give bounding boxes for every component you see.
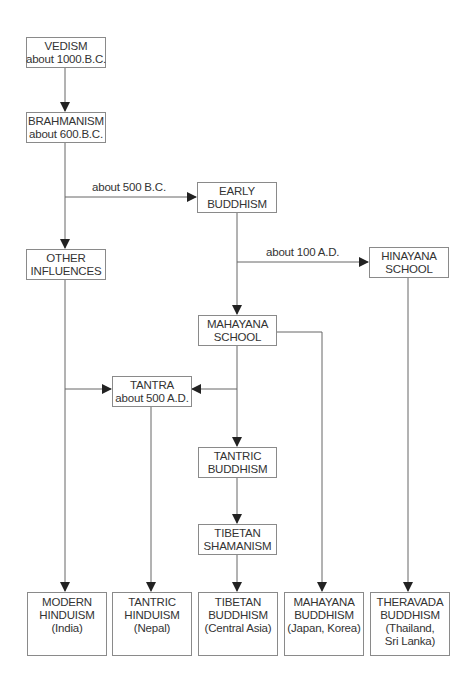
node-label: MODERN bbox=[42, 596, 92, 609]
node-label-2: BUDDHISM bbox=[207, 198, 267, 211]
node-vedism: VEDISM about 1000.B.C. bbox=[26, 37, 106, 68]
node-label-2: HINDUISM bbox=[39, 609, 94, 622]
edge-label-about-500-bc: about 500 B.C. bbox=[92, 181, 166, 193]
node-hinayana-school: HINAYANA SCHOOL bbox=[369, 247, 449, 278]
node-label: MAHAYANA bbox=[293, 596, 354, 609]
node-region: (Nepal) bbox=[134, 622, 170, 635]
node-label: EARLY bbox=[219, 185, 255, 198]
node-label-2: SHAMANISM bbox=[204, 540, 272, 553]
node-other-influences: OTHER INFLUENCES bbox=[26, 249, 106, 280]
node-region: (Japan, Korea) bbox=[287, 622, 360, 635]
node-tibetan-buddhism: TIBETAN BUDDHISM (Central Asia) bbox=[198, 592, 278, 656]
node-sublabel: about 600.B.C. bbox=[29, 128, 103, 141]
node-label-2: INFLUENCES bbox=[31, 265, 102, 278]
node-sublabel: about 1000.B.C. bbox=[26, 53, 106, 66]
node-mahayana-school: MAHAYANA SCHOOL bbox=[198, 315, 277, 346]
node-tantric-buddhism: TANTRIC BUDDHISM bbox=[198, 447, 277, 478]
node-label: TANTRA bbox=[130, 379, 174, 392]
node-label: VEDISM bbox=[45, 40, 88, 53]
node-label: TIBETAN bbox=[214, 527, 260, 540]
node-label: TANTRIC bbox=[128, 596, 176, 609]
node-region: (Thailand, bbox=[385, 622, 434, 635]
node-modern-hinduism: MODERN HINDUISM (India) bbox=[27, 592, 107, 656]
node-label: TIBETAN bbox=[215, 596, 261, 609]
node-brahmanism: BRAHMANISM about 600.B.C. bbox=[26, 112, 106, 143]
node-label-2: SCHOOL bbox=[385, 263, 432, 276]
node-label: MAHAYANA bbox=[207, 318, 268, 331]
node-label-2: BUDDHISM bbox=[294, 609, 354, 622]
node-region: (Central Asia) bbox=[205, 622, 272, 635]
node-tantric-hinduism: TANTRIC HINDUISM (Nepal) bbox=[112, 592, 192, 656]
diagram-canvas: about 500 B.C. about 100 A.D. VEDISM abo… bbox=[0, 0, 474, 690]
node-label: THERAVADA bbox=[377, 596, 444, 609]
node-label: BRAHMANISM bbox=[28, 115, 104, 128]
node-region: (India) bbox=[51, 622, 82, 635]
node-label-2: BUDDHISM bbox=[208, 463, 268, 476]
node-tantra: TANTRA about 500 A.D. bbox=[112, 376, 192, 407]
node-theravada-buddhism: THERAVADA BUDDHISM (Thailand, Sri Lanka) bbox=[370, 592, 450, 656]
node-label-2: SCHOOL bbox=[214, 331, 261, 344]
edge-label-about-100-ad: about 100 A.D. bbox=[266, 246, 339, 258]
node-label: HINAYANA bbox=[381, 250, 437, 263]
node-label-2: HINDUISM bbox=[124, 609, 179, 622]
node-region-2: Sri Lanka) bbox=[385, 635, 435, 648]
node-sublabel: about 500 A.D. bbox=[115, 392, 188, 405]
node-early-buddhism: EARLY BUDDHISM bbox=[197, 182, 277, 213]
node-mahayana-buddhism: MAHAYANA BUDDHISM (Japan, Korea) bbox=[284, 592, 364, 656]
node-label: OTHER bbox=[46, 252, 85, 265]
node-label: TANTRIC bbox=[214, 450, 262, 463]
node-tibetan-shamanism: TIBETAN SHAMANISM bbox=[198, 524, 277, 555]
node-label-2: BUDDHISM bbox=[208, 609, 268, 622]
node-label-2: BUDDHISM bbox=[380, 609, 440, 622]
